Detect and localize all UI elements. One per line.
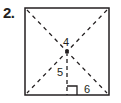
square-figure: 4 5 6 [0,0,121,103]
label-4: 4 [63,36,69,48]
center-point [65,49,69,53]
label-5: 5 [57,66,63,78]
label-6: 6 [84,83,90,95]
right-angle-mark [67,86,77,95]
